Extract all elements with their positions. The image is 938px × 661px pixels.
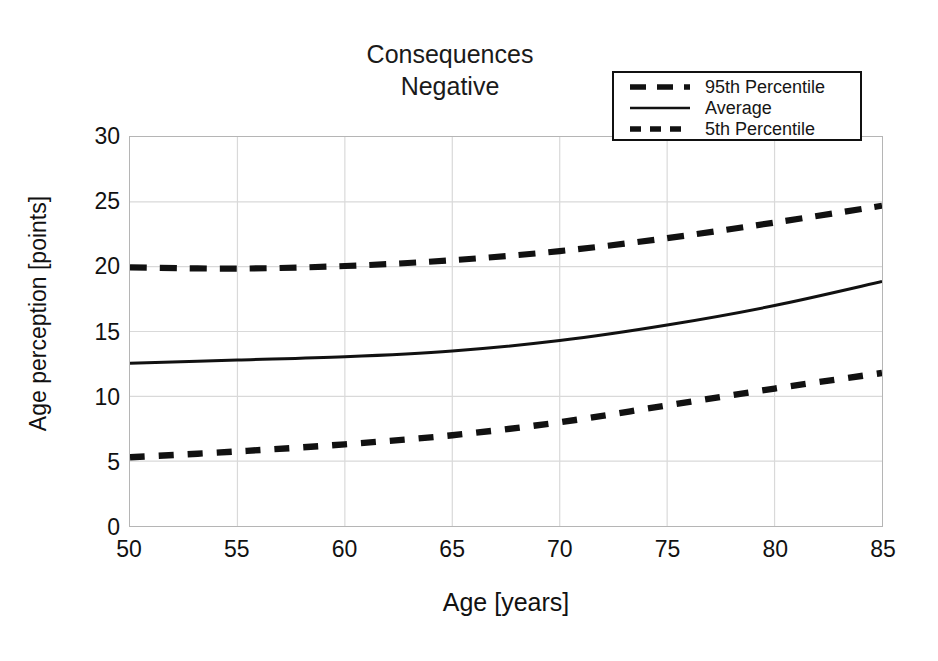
x-tick-label: 85 [848,536,918,563]
legend-line-swatch [629,101,691,115]
legend-item: 5th Percentile [614,118,860,139]
legend-line-swatch [629,122,691,136]
plot-area [129,136,883,527]
series-line [130,206,882,269]
series-line [130,282,882,364]
chart-figure: Consequences Negative Age perception [po… [0,0,938,661]
legend-item: 95th Percentile [614,76,860,97]
x-tick-label: 55 [202,536,272,563]
plot-svg [130,137,882,526]
legend-item-label: 5th Percentile [705,120,815,138]
x-tick-label: 80 [740,536,810,563]
legend-item-label: Average [705,99,772,117]
series-line [130,373,882,457]
legend-item-label: 95th Percentile [705,78,825,96]
x-tick-label: 70 [525,536,595,563]
x-tick-label: 60 [309,536,379,563]
x-tick-label: 65 [417,536,487,563]
legend-item: Average [614,97,860,118]
x-tick-label: 75 [633,536,703,563]
x-tick-label: 50 [94,536,164,563]
chart-legend: 95th PercentileAverage5th Percentile [612,71,862,141]
legend-line-swatch [629,80,691,94]
